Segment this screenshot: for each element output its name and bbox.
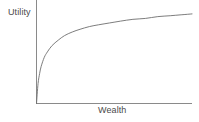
y-axis-label: Utility: [8, 7, 31, 18]
chart-canvas: [0, 0, 199, 122]
utility-curve-line: [37, 14, 193, 104]
data-series-group: [37, 14, 193, 104]
x-axis-label: Wealth: [98, 105, 126, 116]
utility-wealth-chart: Utility Wealth: [0, 0, 199, 122]
